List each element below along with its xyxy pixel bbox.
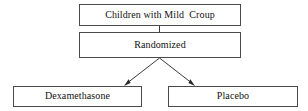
node-arm-dexamethasone-label: Dexamethasone	[45, 91, 110, 102]
node-randomized-label: Randomized	[134, 40, 186, 51]
connector-randomized-to-dexamethasone	[126, 58, 160, 84]
node-enrollment: Children with Mild Croup	[79, 4, 241, 26]
node-arm-dexamethasone: Dexamethasone	[13, 86, 142, 107]
connector-randomized-to-placebo	[160, 58, 194, 84]
arrowhead-placebo-icon	[188, 79, 195, 86]
node-arm-placebo: Placebo	[168, 86, 298, 107]
node-enrollment-label: Children with Mild Croup	[105, 10, 215, 21]
trial-flow-diagram: Children with Mild Croup Randomized Dexa…	[0, 0, 308, 111]
node-randomized: Randomized	[79, 32, 241, 58]
arrowhead-dexamethasone-icon	[124, 79, 131, 86]
node-arm-placebo-label: Placebo	[217, 91, 249, 102]
